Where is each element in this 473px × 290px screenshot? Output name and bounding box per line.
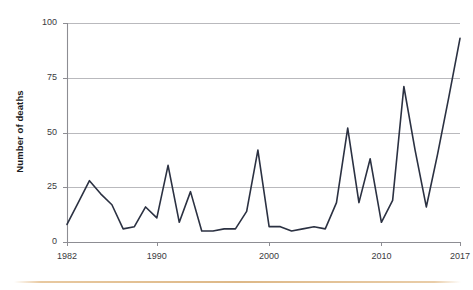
- gridlines: [67, 24, 460, 243]
- line-chart: Number of deaths 0255075100 198219902000…: [0, 0, 473, 290]
- footer-divider: [14, 281, 461, 283]
- axis-ticks: [63, 24, 461, 247]
- data-series-line: [67, 38, 460, 231]
- plot-area: [0, 0, 473, 290]
